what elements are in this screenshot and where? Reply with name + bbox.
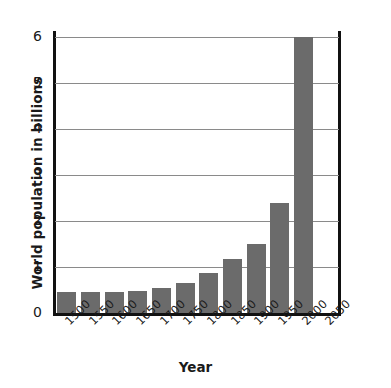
y-tick-label-3: 3 [8,167,42,181]
world-population-bar-chart: World population in billions 0123456 150… [0,0,391,388]
plot-area [55,37,339,313]
bar-1950 [270,203,289,313]
bar-2000 [294,37,313,313]
y-tick-label-2: 2 [8,213,42,227]
y-tick-label-5: 5 [8,75,42,89]
x-axis-title: Year [0,359,391,375]
y-tick-label-4: 4 [8,121,42,135]
y-tick-label-6: 6 [8,29,42,43]
y-tick-label-0: 0 [8,305,42,319]
y-axis-title: World population in billions [29,53,45,313]
y-tick-label-1: 1 [8,259,42,273]
